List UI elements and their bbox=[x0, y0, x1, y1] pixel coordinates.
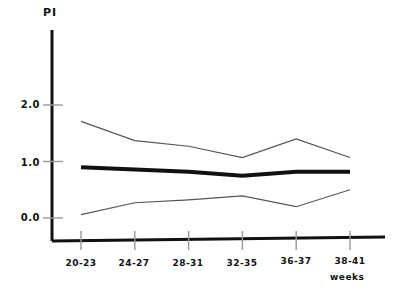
series-lines bbox=[81, 121, 350, 214]
chart-container: PI weeks 2.0 1.0 0.0 20-23 24-27 28-31 3… bbox=[0, 0, 396, 295]
x-axis-line bbox=[52, 237, 385, 241]
x-axis-group bbox=[52, 237, 385, 241]
plot-area bbox=[0, 0, 396, 295]
series-line-upper bbox=[81, 121, 350, 157]
series-line-lower bbox=[81, 190, 350, 215]
series-line-mean bbox=[81, 167, 350, 175]
